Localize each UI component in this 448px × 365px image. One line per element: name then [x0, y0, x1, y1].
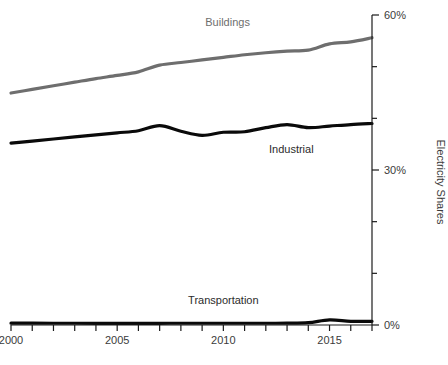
x-tick-label-2005: 2005	[105, 334, 129, 346]
y-tick-label-0%: 0%	[384, 319, 400, 331]
series-layer	[11, 38, 372, 324]
series-label-industrial: Industrial	[269, 143, 314, 155]
y-tick-label-60%: 60%	[384, 9, 406, 21]
y-axis-title: Electricity Shares	[435, 140, 447, 225]
x-tick-label-2015: 2015	[317, 334, 341, 346]
y-tick-label-30%: 30%	[384, 164, 406, 176]
series-line-transportation	[11, 320, 372, 323]
x-tick-label-2010: 2010	[211, 334, 235, 346]
series-label-transportation: Transportation	[188, 294, 259, 306]
series-line-buildings	[11, 38, 372, 93]
chart-container: 20002005201020150%30%60% BuildingsIndust…	[0, 0, 448, 365]
series-label-buildings: Buildings	[205, 16, 250, 28]
line-chart: 20002005201020150%30%60% BuildingsIndust…	[0, 0, 448, 365]
series-line-industrial	[11, 124, 372, 144]
x-tick-label-2000: 2000	[0, 334, 23, 346]
